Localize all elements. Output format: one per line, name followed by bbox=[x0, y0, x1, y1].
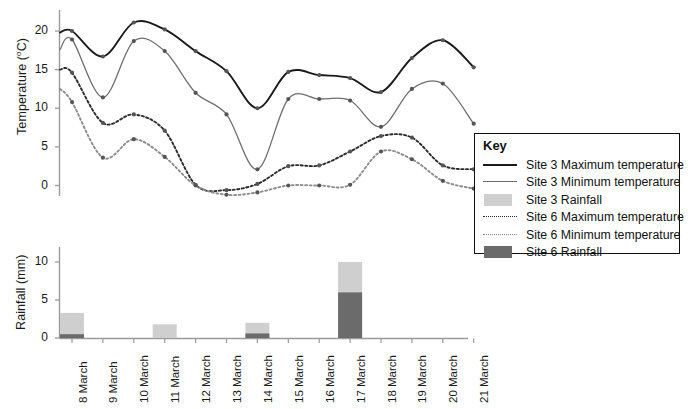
x-axis-label-13: 20 March bbox=[447, 355, 459, 403]
legend-item-5: Site 6 Minimum temperature bbox=[483, 226, 679, 244]
legend-swatch-light-gray-box bbox=[483, 194, 517, 206]
x-axis-label-12: 19 March bbox=[416, 355, 428, 403]
x-axis-label-5: 12 March bbox=[200, 355, 212, 403]
rainfall-bar-site6 bbox=[338, 292, 362, 338]
x-axis-label-11: 18 March bbox=[386, 355, 398, 403]
legend-swatch-solid-gray-line bbox=[483, 176, 517, 188]
legend-swatch-dotted-gray-line bbox=[483, 229, 517, 241]
legend-item-4: Site 6 Maximum temperature bbox=[483, 209, 679, 227]
x-axis-label-9: 16 March bbox=[324, 355, 336, 403]
legend-swatch-mark bbox=[483, 181, 517, 182]
legend-item-1: Site 3 Maximum temperature bbox=[483, 156, 679, 174]
rainfall-bar-site6 bbox=[245, 333, 269, 338]
legend-title: Key bbox=[483, 138, 679, 153]
temperature-tick-label: 0 bbox=[22, 180, 48, 190]
x-axis-label-8: 15 March bbox=[293, 355, 305, 403]
legend-item-label: Site 6 Rainfall bbox=[526, 245, 602, 259]
legend-item-label: Site 3 Rainfall bbox=[526, 193, 602, 207]
chart-figure: Temperature (oC) Rainfall (mm) 8 March9 … bbox=[0, 0, 688, 409]
legend-item-2: Site 3 Minimum temperature bbox=[483, 174, 679, 192]
legend-box: Key Site 3 Maximum temperatureSite 3 Min… bbox=[474, 133, 680, 254]
legend-item-3: Site 3 Rainfall bbox=[483, 191, 679, 209]
x-axis-label-14: 21 March bbox=[478, 355, 490, 403]
legend-swatch-dark-gray-box bbox=[483, 246, 517, 258]
rainfall-bar-site6 bbox=[60, 334, 84, 338]
x-axis-label-6: 13 March bbox=[231, 355, 243, 403]
legend-swatch-mark bbox=[483, 234, 517, 235]
legend-swatch-mark bbox=[483, 164, 517, 166]
temperature-tick-label: 10 bbox=[22, 102, 48, 112]
temperature-tick-label: 5 bbox=[22, 141, 48, 151]
legend-item-6: Site 6 Rainfall bbox=[483, 244, 679, 262]
legend-swatch-mark bbox=[483, 216, 517, 217]
legend-item-label: Site 3 Minimum temperature bbox=[526, 175, 680, 189]
x-axis-label-4: 11 March bbox=[169, 356, 181, 403]
legend-swatch-dotted-dark-line bbox=[483, 211, 517, 223]
legend-swatch-mark bbox=[484, 246, 512, 258]
temperature-tick-label: 15 bbox=[22, 64, 48, 74]
rainfall-tick-label: 10 bbox=[22, 256, 48, 266]
legend-swatch-mark bbox=[484, 194, 512, 206]
legend-swatch-solid-black-line bbox=[483, 159, 517, 171]
legend-item-label: Site 3 Maximum temperature bbox=[526, 158, 684, 172]
temperature-tick-label: 20 bbox=[22, 25, 48, 35]
x-axis-label-1: 8 March bbox=[77, 361, 89, 403]
rainfall-bar-site3 bbox=[153, 324, 177, 338]
rainfall-tick-label: 5 bbox=[22, 294, 48, 304]
legend-item-label: Site 6 Minimum temperature bbox=[526, 228, 680, 242]
x-axis-label-3: 10 March bbox=[138, 355, 150, 403]
legend-items: Site 3 Maximum temperatureSite 3 Minimum… bbox=[475, 156, 679, 261]
x-axis-label-2: 9 March bbox=[107, 361, 119, 403]
x-axis-label-7: 14 March bbox=[262, 355, 274, 403]
x-axis-label-10: 17 March bbox=[355, 355, 367, 403]
legend-item-label: Site 6 Maximum temperature bbox=[526, 210, 684, 224]
rainfall-tick-label: 0 bbox=[22, 332, 48, 342]
